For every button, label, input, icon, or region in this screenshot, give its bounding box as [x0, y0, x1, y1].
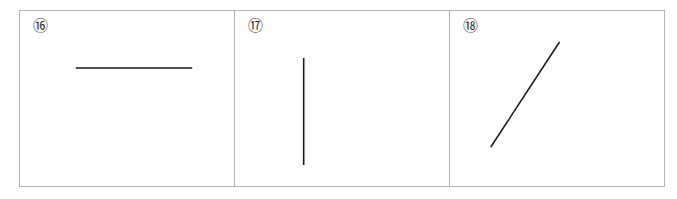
panel-11: ⑰: [234, 11, 449, 186]
panel-strip: ⑯ ⑰ ⑱: [19, 10, 665, 187]
diagonal-line: [491, 42, 560, 147]
panel-11-drawing: [235, 11, 449, 186]
panel-12: ⑱: [449, 11, 664, 186]
panel-10-drawing: [20, 11, 234, 186]
panel-12-drawing: [450, 11, 664, 186]
panel-10: ⑯: [20, 11, 234, 186]
figure-sheet: ⑯ ⑰ ⑱: [0, 0, 677, 199]
